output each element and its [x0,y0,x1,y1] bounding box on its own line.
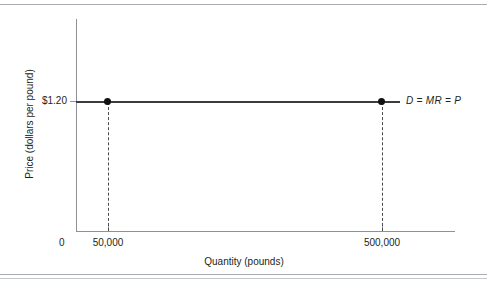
x-axis-tick-label-origin: 0 [59,238,65,248]
y-axis-line [76,19,77,232]
y-axis-title: Price (dollars per pound) [25,69,35,179]
x-axis-line [76,231,455,232]
data-point-50000 [104,98,111,105]
figure-container: $1.20 0 50,000 500,000 Quantity (pounds)… [0,0,487,291]
bottom-divider-rule-upper [0,274,487,275]
curve-label-demand-mr-price: D = MR = P [406,96,461,106]
top-divider-rule [0,4,487,5]
demand-marginal-revenue-price-line [76,101,400,103]
dropline-50000 [108,102,109,231]
data-point-500000 [378,98,385,105]
bottom-divider-rule-lower [0,278,487,279]
x-axis-tick-label-500000: 500,000 [364,238,400,248]
dropline-500000 [382,102,383,231]
x-axis-tick-label-50000: 50,000 [93,238,124,248]
x-axis-title: Quantity (pounds) [204,257,284,267]
